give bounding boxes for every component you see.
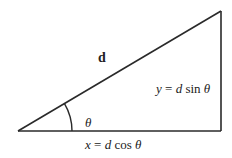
hypotenuse-label: d	[98, 50, 106, 65]
theta-symbol: θ	[135, 137, 142, 152]
angle-arc	[65, 104, 73, 131]
equals-sign: =	[162, 81, 176, 96]
angle-label: θ	[85, 115, 92, 130]
equals-sign: =	[91, 137, 105, 152]
cos-function: cos	[111, 137, 135, 152]
triangle-diagram: d θ y = d sin θ x = d cos θ	[0, 0, 232, 158]
sin-function: sin	[182, 81, 204, 96]
opposite-side-label: y = d sin θ	[154, 81, 211, 96]
hypotenuse-line	[18, 11, 221, 131]
adjacent-side-label: x = d cos θ	[84, 137, 142, 152]
theta-symbol: θ	[204, 81, 211, 96]
